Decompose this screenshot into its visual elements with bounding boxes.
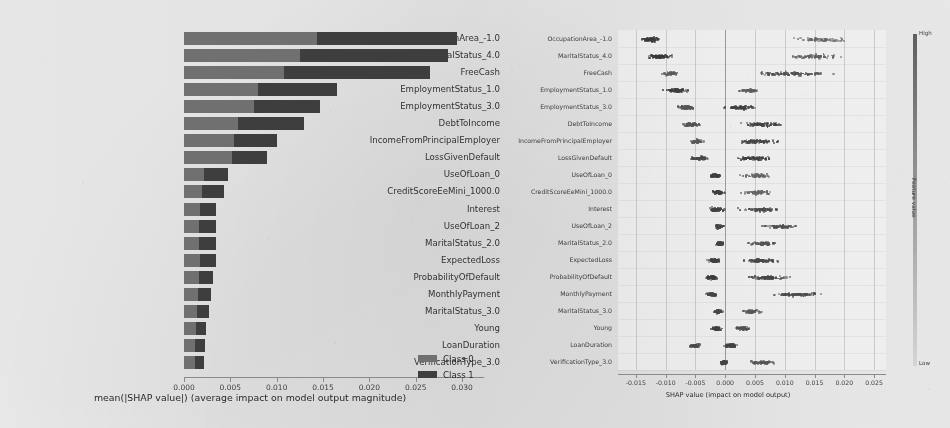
bar-segment-class0 xyxy=(184,49,300,62)
beeswarm-point xyxy=(768,74,770,76)
bar-category-label: EmploymentStatus_1.0 xyxy=(322,83,500,96)
bar-segment-class0 xyxy=(184,254,200,267)
beeswarm-point xyxy=(747,328,749,330)
beeswarm-point xyxy=(760,311,762,313)
bar-segment-class1 xyxy=(196,322,206,335)
bar-segment-class1 xyxy=(204,168,227,181)
beeswarm-point xyxy=(754,190,756,192)
beeswarm-point xyxy=(763,142,765,144)
beeswarm-point xyxy=(754,107,756,109)
beeswarm-feature-label: IncomeFromPrincipalEmployer xyxy=(498,135,612,146)
beeswarm-point xyxy=(754,123,756,125)
beeswarm-point xyxy=(774,74,776,76)
bar-segment-class0 xyxy=(184,203,200,216)
beeswarm-point xyxy=(718,209,720,211)
beeswarm-point xyxy=(737,157,739,159)
beeswarm-point xyxy=(780,278,782,280)
beeswarm-x-axis-label: SHAP value (impact on model output) xyxy=(558,391,898,399)
bar-segment-class1 xyxy=(195,339,205,352)
bar-segment-class1 xyxy=(199,237,217,250)
beeswarm-feature-label: ProbabilityOfDefault xyxy=(498,271,612,282)
beeswarm-point xyxy=(797,73,799,75)
beeswarm-point xyxy=(760,192,762,194)
beeswarm-point xyxy=(766,362,768,364)
beeswarm-point xyxy=(698,345,700,347)
beeswarm-point xyxy=(827,55,829,57)
beeswarm-point xyxy=(789,276,791,278)
beeswarm-point xyxy=(725,345,727,347)
beeswarm-point xyxy=(743,108,745,110)
bar-row: MaritalStatus_3.0 xyxy=(0,305,500,318)
beeswarm-point xyxy=(713,293,715,295)
beeswarm-axis-line xyxy=(618,374,886,375)
bar-segment-class1 xyxy=(200,254,216,267)
bar-axis-tick-label: 0.025 xyxy=(394,383,438,392)
bar-segment-class0 xyxy=(184,151,232,164)
beeswarm-point xyxy=(677,105,679,107)
beeswarm-point xyxy=(755,242,757,244)
beeswarm-point xyxy=(749,124,752,127)
beeswarm-point xyxy=(671,56,673,58)
legend-swatch xyxy=(418,371,437,378)
bar-axis-tick-label: 0.010 xyxy=(255,383,299,392)
beeswarm-point xyxy=(723,192,726,195)
beeswarm-point xyxy=(762,361,764,363)
beeswarm-feature-label: MaritalStatus_4.0 xyxy=(498,50,612,61)
beeswarm-point xyxy=(740,192,742,194)
beeswarm-point xyxy=(716,327,718,329)
beeswarm-point xyxy=(795,225,797,227)
legend-item: Class 1 xyxy=(418,368,474,381)
beeswarm-feature-label: LossGivenDefault xyxy=(498,152,612,163)
bar-row: MaritalStatus_2.0 xyxy=(0,237,500,250)
bar-segment-class1 xyxy=(202,185,224,198)
bar-axis-tick xyxy=(184,378,185,382)
beeswarm-point xyxy=(767,243,769,245)
bar-axis-tick-label: 0.030 xyxy=(440,383,484,392)
bar-category-label: MonthlyPayment xyxy=(322,288,500,301)
beeswarm-point xyxy=(662,89,664,91)
beeswarm-point xyxy=(756,124,758,126)
beeswarm-point xyxy=(763,260,765,262)
bar-segment-class1 xyxy=(199,271,213,284)
beeswarm-point xyxy=(753,261,755,263)
beeswarm-point xyxy=(818,57,820,59)
beeswarm-point xyxy=(840,56,842,58)
beeswarm-point xyxy=(752,140,754,142)
bar-segment-class0 xyxy=(184,66,284,79)
beeswarm-feature-label: MaritalStatus_2.0 xyxy=(498,237,612,248)
beeswarm-point xyxy=(685,89,687,91)
bar-segment-class0 xyxy=(184,117,238,130)
beeswarm-point xyxy=(794,73,796,75)
beeswarm-point xyxy=(801,58,803,60)
beeswarm-point xyxy=(738,90,740,92)
bar-row: MaritalStatus_4.0 xyxy=(0,49,500,62)
bar-axis-tick-label: 0.020 xyxy=(347,383,391,392)
bar-segment-class1 xyxy=(199,220,217,233)
bar-segment-class0 xyxy=(184,83,258,96)
beeswarm-point xyxy=(715,310,717,312)
beeswarm-point xyxy=(804,294,806,296)
beeswarm-feature-label: LoanDuration xyxy=(498,339,612,350)
bar-segment-class1 xyxy=(197,305,209,318)
beeswarm-point xyxy=(780,225,782,227)
bar-segment-class0 xyxy=(184,168,204,181)
beeswarm-point xyxy=(776,225,778,227)
bar-row: CreditScoreEeMini_1000.0 xyxy=(0,185,500,198)
bar-row: LossGivenDefault xyxy=(0,151,500,164)
beeswarm-point xyxy=(761,141,763,143)
beeswarm-point xyxy=(843,40,845,42)
beeswarm-point xyxy=(696,142,698,144)
beeswarm-feature-label: EmploymentStatus_3.0 xyxy=(498,101,612,112)
bar-segment-class0 xyxy=(184,220,199,233)
beeswarm-point xyxy=(814,73,816,75)
beeswarm-feature-label: VerificationType_3.0 xyxy=(498,356,612,367)
legend-item: Class 0 xyxy=(418,352,474,365)
beeswarm-point xyxy=(698,123,701,126)
bar-category-label: MaritalStatus_2.0 xyxy=(322,237,500,250)
bar-segment-class1 xyxy=(284,66,430,79)
beeswarm-point xyxy=(794,294,796,296)
beeswarm-point xyxy=(663,55,665,57)
beeswarm-point xyxy=(761,175,763,177)
bar-row: IncomeFromPrincipalEmployer xyxy=(0,134,500,147)
bar-category-label: Young xyxy=(322,322,500,335)
